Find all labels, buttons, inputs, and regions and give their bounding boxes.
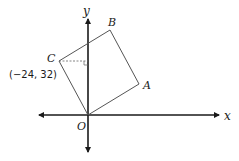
x-axis-label: x [224,109,231,123]
vertex-label-a: A [142,79,151,92]
point-c-coordinates: (−24, 32) [9,69,57,80]
square-oabc [59,30,139,115]
y-axis-label: y [82,4,90,18]
diagram-canvas: y x O A B C (−24, 32) [0,0,239,161]
vertex-label-c: C [47,52,56,65]
vertex-label-b: B [107,16,116,29]
origin-label: O [77,120,86,133]
